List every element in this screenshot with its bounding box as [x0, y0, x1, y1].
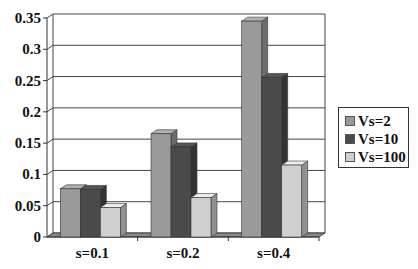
x-tick-label: s=0.2	[166, 245, 199, 261]
legend-swatch	[345, 152, 355, 162]
legend-label: Vs=2	[358, 113, 391, 130]
legend: Vs=2Vs=10Vs=100	[338, 107, 409, 168]
y-tick-label: 0.35	[15, 10, 41, 26]
legend-item: Vs=100	[345, 148, 408, 166]
legend-item: Vs=2	[345, 112, 408, 130]
y-tick-label: 0.05	[15, 198, 41, 214]
y-tick-label: 0.1	[22, 166, 41, 182]
legend-item: Vs=10	[345, 130, 408, 148]
legend-swatch	[345, 116, 355, 126]
legend-label: Vs=10	[358, 131, 398, 148]
legend-swatch	[345, 134, 355, 144]
y-tick-label: 0.25	[15, 73, 41, 89]
x-tick-label: s=0.1	[76, 245, 109, 261]
y-tick-label: 0.3	[22, 41, 41, 57]
legend-label: Vs=100	[358, 149, 406, 166]
x-tick-label: s=0.4	[257, 245, 291, 261]
bar	[191, 194, 217, 237]
bar	[100, 204, 126, 237]
y-tick-label: 0.15	[15, 135, 41, 151]
y-tick-label: 0	[34, 229, 42, 245]
bar	[282, 161, 308, 237]
y-tick-label: 0.2	[22, 104, 41, 120]
